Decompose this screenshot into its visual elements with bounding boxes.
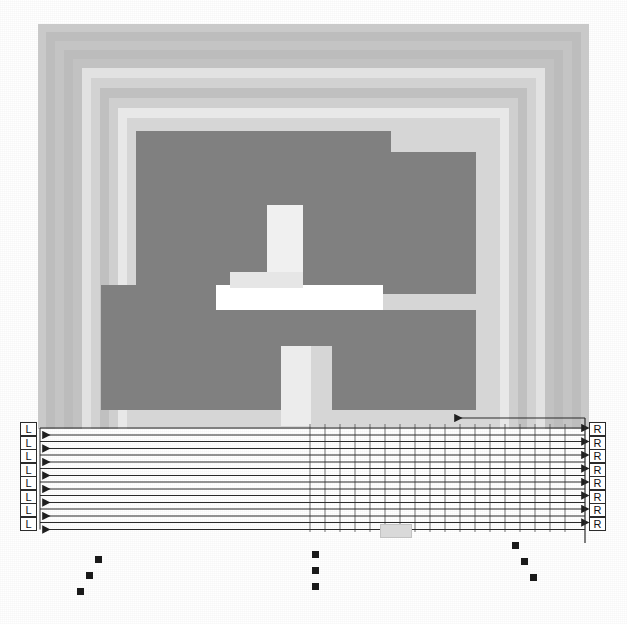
ellipsis-center-dot-2 <box>312 567 319 574</box>
ellipsis-center-dot-3 <box>312 583 319 590</box>
ellipsis-left-dot-3 <box>77 588 84 595</box>
ellipsis-center-dot-1 <box>312 551 319 558</box>
diagram-canvas: LLLLLLLL RRRRRRRR <box>0 0 627 624</box>
ellipsis-right-dot-3 <box>530 574 537 581</box>
ellipsis-right-dot-2 <box>521 558 528 565</box>
ellipsis-right-dot-1 <box>512 542 519 549</box>
ellipsis-left-dot-2 <box>86 572 93 579</box>
ellipsis-left-dot-1 <box>95 556 102 563</box>
ellipsis-group <box>0 0 627 624</box>
